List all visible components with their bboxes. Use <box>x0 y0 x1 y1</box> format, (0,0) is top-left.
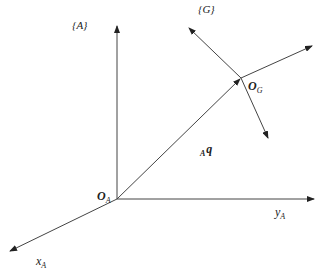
frame-g-label: {G} <box>198 4 215 15</box>
axis-x-a-label: xA <box>36 255 46 267</box>
frame-g-axis-2 <box>189 28 241 78</box>
origin-g-sub: G <box>257 86 263 95</box>
origin-g-label: OG <box>248 80 262 92</box>
vector-q <box>117 79 240 199</box>
frame-a-label: {A} <box>72 20 88 31</box>
frame-g-label-text: {G} <box>198 3 215 15</box>
origin-a-label: OA <box>97 190 111 202</box>
origin-g-letter: O <box>248 79 257 93</box>
vector-q-label: Aq <box>200 143 212 155</box>
diagram-lines <box>0 0 318 275</box>
vector-q-letter: q <box>206 142 212 156</box>
frame-a-x-axis <box>10 199 117 251</box>
vector-q-presub: A <box>200 149 205 158</box>
frame-g-axis-1 <box>241 46 312 78</box>
axis-x-sub: A <box>41 261 46 270</box>
axis-y-sub: A <box>280 212 285 221</box>
origin-a-letter: O <box>97 189 106 203</box>
diagram-canvas: {A} {G} OA OG Aq yA xA <box>0 0 318 275</box>
origin-a-sub: A <box>106 196 111 205</box>
frame-a-label-text: {A} <box>72 19 88 31</box>
axis-y-a-label: yA <box>275 206 285 218</box>
